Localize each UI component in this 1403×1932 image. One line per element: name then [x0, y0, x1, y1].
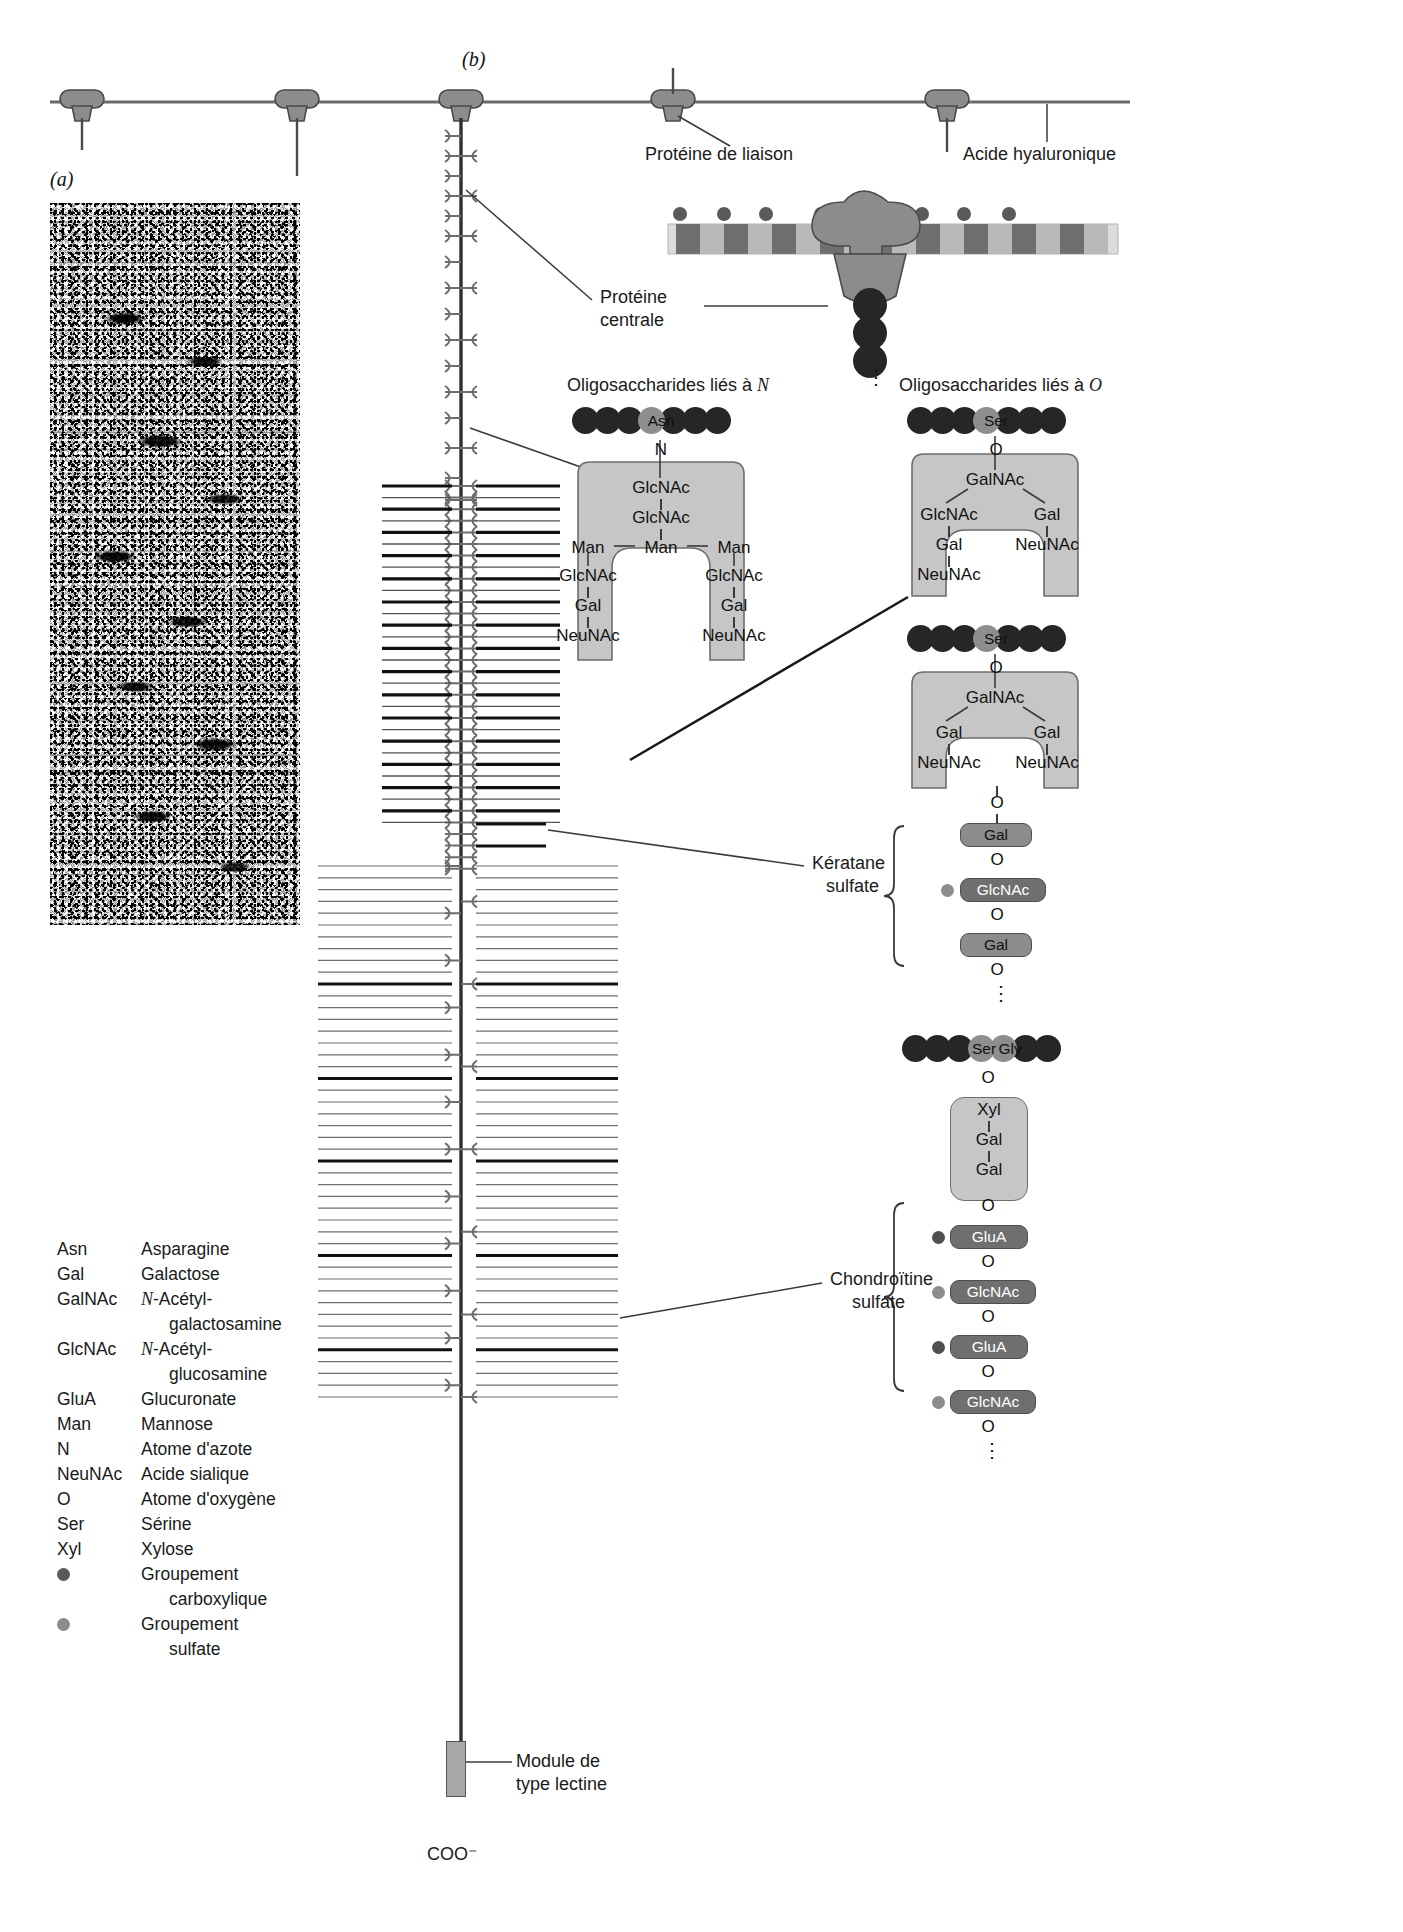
gag-chains — [318, 486, 618, 1397]
chondroitin-unit-0-pill: GluA — [950, 1225, 1028, 1249]
glycan-stub-right — [461, 631, 477, 643]
peptide-bead — [1039, 625, 1066, 652]
legend-row: OAtome d'oxygène — [57, 1487, 357, 1512]
glycan-stub-left — [445, 282, 461, 294]
keratan-sulfate-label-line1: Kératane — [812, 852, 885, 875]
legend-row: SerSérine — [57, 1512, 357, 1537]
chondroitin-unit-3-pill: GlcNAc — [950, 1390, 1036, 1414]
link-protein-1 — [60, 90, 104, 150]
peptide-bead — [1039, 407, 1066, 434]
peptide-bead — [704, 407, 731, 434]
legend-definition: Xylose — [141, 1537, 357, 1562]
glycan-stub-right — [461, 1143, 477, 1155]
o-glycan-1-arm-right-0: Gal — [1023, 505, 1071, 525]
legend-row: GalNAcN-Acétyl- — [57, 1287, 357, 1312]
glycan-stub-left — [445, 386, 461, 398]
legend-symbol-definition: Groupement — [141, 1562, 357, 1587]
chondroitin-linker-2: Gal — [964, 1160, 1014, 1180]
core-protein-leader — [466, 190, 592, 300]
electron-micrograph-image — [50, 203, 300, 925]
o-linked-title: Oligosaccharides liés à O — [899, 374, 1102, 397]
glycan-stub-left — [445, 130, 461, 142]
glycan-stub-left — [445, 334, 461, 346]
figure-proteoglycan-aggregate: (a) (b) Protéine de liaison Acide hyalur… — [0, 0, 1403, 1932]
o-glycan-2-arm-left-0: Gal — [925, 723, 973, 743]
legend-row: GlcNAcN-Acétyl- — [57, 1337, 357, 1362]
glycan-stub-right — [461, 805, 477, 817]
o-glycan-2-link-atom: O — [985, 658, 1007, 678]
glycan-stub-left — [445, 230, 461, 242]
link-protein-4 — [651, 68, 695, 121]
glycan-stub-right — [461, 689, 477, 701]
glycan-stub-right — [461, 863, 477, 875]
legend-row-continuation: glucosamine — [57, 1362, 357, 1387]
legend-definition-continued: galactosamine — [141, 1312, 357, 1337]
lectin-type-module — [446, 1741, 466, 1797]
legend-definition: Acide sialique — [141, 1462, 357, 1487]
complex-continuation-dots: ⋮ — [866, 374, 886, 380]
glycan-stub-right — [461, 642, 477, 654]
glycan-stub-right — [461, 828, 477, 840]
glycan-stub-right — [461, 895, 477, 907]
legend-symbol-definition-continued: sulfate — [141, 1637, 357, 1662]
glycan-stub-right — [461, 978, 477, 990]
legend-row: NAtome d'azote — [57, 1437, 357, 1462]
abbreviation-legend: AsnAsparagineGalGalactoseGalNAcN-Acétyl-… — [57, 1237, 357, 1662]
glycan-stub-right — [461, 666, 477, 678]
o-linked-title-text: Oligosaccharides liés à — [899, 375, 1089, 395]
chondroitin-sulfate-label-line2: sulfate — [852, 1291, 905, 1314]
legend-abbreviation: Gal — [57, 1262, 141, 1287]
legend-abbreviation: GalNAc — [57, 1287, 141, 1312]
o-glycan-2-core: GalNAc — [955, 688, 1035, 708]
chondroitin-sulfate-leader — [620, 1283, 822, 1318]
legend-abbreviation: NeuNAc — [57, 1462, 141, 1487]
chondroitin-residue-gly-label: Gly — [995, 1040, 1025, 1058]
n-glycan-arm-left-1: Gal — [564, 596, 612, 616]
glycan-stub-right — [461, 503, 477, 515]
glycan-stub-right — [461, 735, 477, 747]
glycan-stub-right — [461, 840, 477, 852]
legend-row: AsnAsparagine — [57, 1237, 357, 1262]
glycan-stub-left — [445, 828, 461, 840]
legend-definition: Asparagine — [141, 1237, 357, 1262]
legend-definition: Atome d'oxygène — [141, 1487, 357, 1512]
glycan-stub-right — [461, 480, 477, 492]
glycan-stub-right — [461, 782, 477, 794]
link-protein-leader — [678, 116, 730, 146]
glycan-stub-right — [461, 1226, 477, 1238]
glycan-stub-right — [461, 619, 477, 631]
peptide-bead — [1034, 1035, 1061, 1062]
sulfate-group-icon — [941, 884, 954, 897]
sulfate-group-icon — [932, 1396, 945, 1409]
glycan-stub-right — [461, 1061, 477, 1073]
glycan-stub-right — [461, 550, 477, 562]
n-glycan-arm-right-0: GlcNAc — [697, 566, 771, 586]
glycan-stub-right — [461, 150, 477, 162]
n-glycan-branch-center: Man — [637, 538, 685, 558]
glycan-stub-left — [445, 210, 461, 222]
glycan-stub-right — [461, 230, 477, 242]
glycan-stub-right — [461, 442, 477, 454]
legend-definition: Galactose — [141, 1262, 357, 1287]
glycan-stub-right — [461, 1391, 477, 1403]
carboxyl-group-icon — [932, 1341, 945, 1354]
keratan-bond-atom-0: O — [986, 850, 1008, 870]
n-glycan-stem-1: GlcNAc — [624, 508, 698, 528]
glycan-stub-right — [461, 561, 477, 573]
glycan-stub-left — [445, 360, 461, 372]
glycan-stub-right — [461, 758, 477, 770]
legend-abbreviation: Asn — [57, 1237, 141, 1262]
chondroitin-bond-atom-3: O — [977, 1417, 999, 1437]
glycan-stub-right — [461, 596, 477, 608]
asn-residue-label: Asn — [641, 412, 681, 430]
legend-abbreviation: O — [57, 1487, 141, 1512]
keratan-bond-atom-1: O — [986, 905, 1008, 925]
legend-symbol-swatch — [57, 1612, 141, 1637]
keratan-sulfate-brace — [884, 826, 904, 966]
link-protein-3 — [439, 90, 483, 121]
o-glycan-leader — [630, 597, 908, 760]
glycan-stub-right — [461, 538, 477, 550]
n-glycan-arm-left-0: GlcNAc — [551, 566, 625, 586]
legend-row: XylXylose — [57, 1537, 357, 1562]
n-glycan-arm-right-2: NeuNAc — [692, 626, 776, 646]
